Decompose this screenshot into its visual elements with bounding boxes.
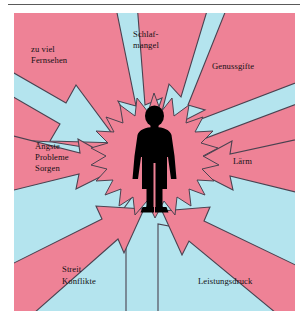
label-schlafmangel-line2: mangel [133, 40, 159, 50]
label-streit-line1: Streit [62, 264, 81, 274]
label-aengste-line3: Sorgen [35, 163, 60, 173]
diagram-page: zu viel Fernsehen Schlaf- mangel Genussg… [0, 0, 308, 323]
label-genussgifte: Genussgifte [212, 61, 254, 71]
label-leistungsdruck: Leistungsdruck [198, 276, 252, 286]
label-schlafmangel-line1: Schlaf- [133, 29, 159, 39]
label-fernsehen-line2: Fernsehen [31, 55, 67, 65]
label-laerm: Lärm [233, 156, 252, 166]
label-streit-line2: Konflikte [62, 276, 96, 286]
label-aengste-line2: Probleme [35, 152, 69, 162]
label-fernsehen-line1: zu viel [31, 44, 55, 54]
top-divider-rule [8, 4, 300, 5]
label-aengste-line1: Ängste [35, 141, 60, 151]
